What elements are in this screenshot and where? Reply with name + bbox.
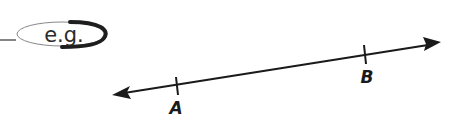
line-segment [124, 45, 428, 93]
point-b: B [361, 45, 374, 87]
example-badge: e.g. [0, 22, 107, 47]
line-ab [112, 37, 441, 99]
diagram-canvas: e.g. A B [0, 0, 456, 135]
point-label-b: B [361, 67, 374, 87]
point-label-a: A [167, 98, 182, 118]
tick-mark-a [176, 77, 178, 95]
tick-mark-b [364, 45, 366, 64]
badge-text: e.g. [44, 23, 84, 47]
arrowhead-right-icon [423, 37, 441, 51]
